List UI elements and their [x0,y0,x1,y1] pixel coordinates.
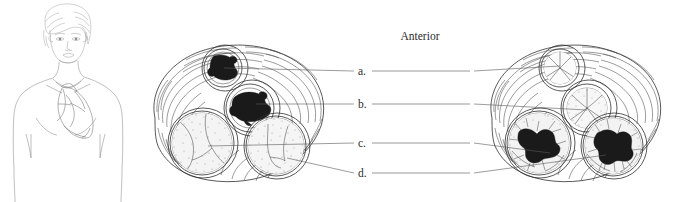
label-b-text: b. [358,98,367,110]
mitral-valve-open [581,113,647,179]
label-d-text: d. [358,167,367,179]
label-c-text: c. [358,137,366,149]
tricuspid-valve-closed [168,108,238,178]
heart-valve-figure: Anterior a. b. c. d. [0,0,698,202]
mitral-valve-closed [244,113,310,179]
label-a-text: a. [358,65,366,77]
orientation-label: Anterior [401,30,440,42]
